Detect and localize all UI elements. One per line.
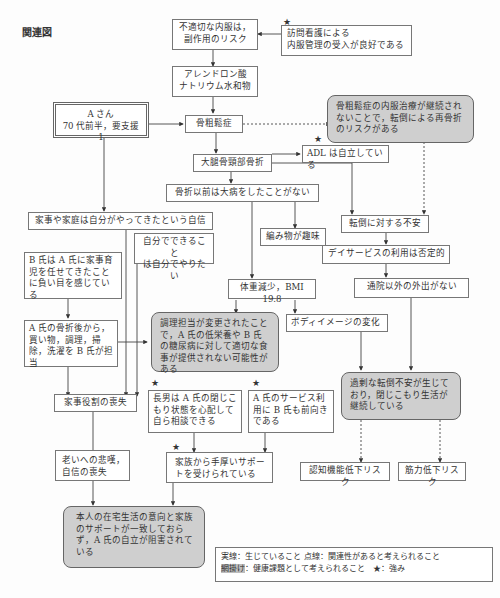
- legend-line-types: 実線：生じていること 点線：関連性があると考えられること: [221, 551, 487, 563]
- legend-shaded-desc: ：健康課題として考えられること ★：強み: [245, 564, 405, 573]
- node-independence-hindered: 本人の在宅生活の意向と家族のサポートが一致しておらず，A 氏の自立が阻害されてい…: [63, 506, 205, 568]
- node-muscle-risk: 筋力低下リスク: [398, 462, 466, 481]
- node-weight-loss: 体重減少，BMI 19.8: [228, 279, 316, 299]
- node-patient: A さん 70 代前半，要支援 1: [53, 102, 149, 138]
- node-b-positive: A 氏のサービス利用に B 氏も前向きである: [248, 390, 334, 433]
- legend-line-2: 網掛け：健康課題として考えられること ★：強み: [221, 563, 487, 575]
- node-no-major-illness: 骨折以前は大病をしたことがない: [166, 184, 319, 202]
- node-nutrition-issue: 調理担当が変更されたことで，A 氏の低栄養や B 氏の糖尿病に対して適切な食事が…: [151, 312, 279, 372]
- section-label: 関連図: [22, 24, 52, 39]
- legend-shaded-label: 網掛け: [221, 564, 245, 573]
- node-visiting-nurse: 訪問看護による 内服管理の受入が良好である: [281, 25, 412, 56]
- node-femoral-fracture: 大腿骨頸部骨折: [193, 154, 272, 172]
- node-cognitive-risk: 認知機能低下リスク: [300, 462, 390, 481]
- node-do-myself: 自分でできること は自分でやりたい: [134, 233, 214, 264]
- legend: 実線：生じていること 点線：関連性があると考えられること 網掛け：健康課題として…: [215, 547, 493, 582]
- node-fear-of-falling: 転倒に対する不安: [341, 215, 429, 233]
- node-b-takes-over: A 氏の骨折後から，買い物，調理，掃除，洗濯を B 氏が担当: [24, 320, 118, 367]
- node-withdrawal: 過剰な転倒不安が生じており，閉じこもり生活が継続している: [341, 372, 461, 420]
- node-housework-confidence: 家事や家庭は自分がやってきたという自信: [28, 212, 213, 230]
- node-grief-aging: 老いへの悲嘆， 自信の喪失: [55, 450, 130, 481]
- node-family-support: 家族から手厚いサポートを受けられている: [166, 452, 273, 483]
- strength-star-icon: ★: [314, 135, 322, 144]
- node-knitting-hobby: 編み物が趣味: [260, 228, 326, 246]
- node-osteoporosis: 骨粗鬆症: [185, 115, 243, 133]
- node-improper-medication: 不適切な内服は， 副作用のリスク: [172, 19, 258, 50]
- strength-star-icon: ★: [151, 379, 159, 388]
- node-day-service-negative: デイサービスの利用は否定的: [322, 245, 450, 264]
- node-adl-independent: ADL は自立している: [302, 145, 389, 163]
- strength-star-icon: ★: [252, 379, 260, 388]
- node-b-guilt: B 氏は A 氏に家事育児を任せてきたことに負い目を感じている: [24, 252, 122, 299]
- node-body-image: ボディイメージの変化: [286, 314, 388, 332]
- node-eldest-son: 長男は A 氏の閉じこもり状態を心配して自ら相談できる: [148, 390, 242, 433]
- node-no-outings: 通院以外の外出がない: [354, 278, 469, 298]
- node-loss-of-role: 家事役割の喪失: [54, 394, 137, 412]
- node-alendronate: アレンドロン酸 ナトリウム水和物: [172, 66, 258, 97]
- strength-star-icon: ★: [172, 443, 180, 452]
- node-refracture-risk: 骨粗鬆症の内服治療が継続されないことで，転倒による再骨折のリスクがある: [327, 95, 474, 143]
